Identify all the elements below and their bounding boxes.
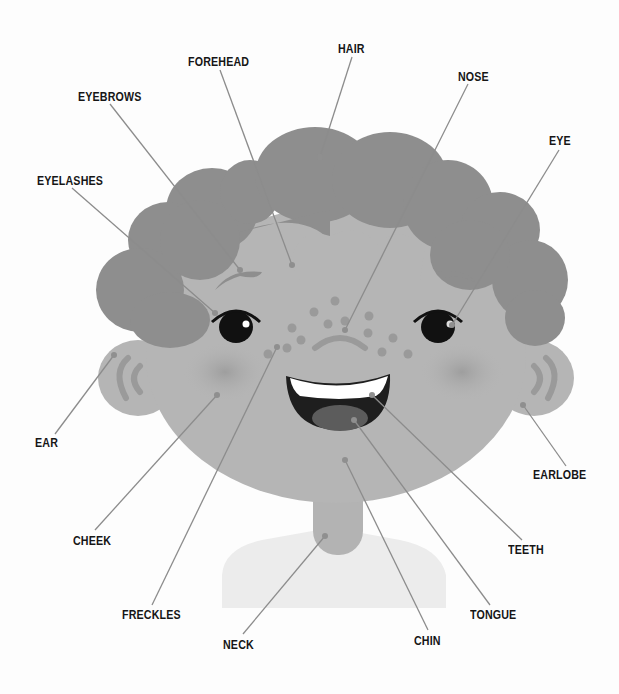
anchor-dot-teeth — [369, 392, 375, 398]
face-parts-diagram: FOREHEADHAIRNOSEEYEBROWSEYEEYELASHESEARE… — [0, 0, 619, 694]
label-eye: EYE — [549, 134, 571, 147]
anchor-dot-eyebrows — [237, 267, 243, 273]
label-eyebrows: EYEBROWS — [78, 90, 142, 103]
anchor-dot-earlobe — [520, 402, 526, 408]
label-neck: NECK — [223, 638, 254, 651]
right-cheek-blush — [420, 342, 504, 402]
label-forehead: FOREHEAD — [188, 55, 249, 68]
anchor-dot-ear — [111, 352, 117, 358]
forehead-skin — [290, 231, 425, 280]
anchor-dot-tongue — [351, 417, 357, 423]
anchor-dot-eyelashes — [212, 310, 218, 316]
anchor-dot-nose — [342, 327, 348, 333]
label-earlobe: EARLOBE — [533, 468, 586, 481]
anchor-dot-neck — [322, 533, 328, 539]
label-nose: NOSE — [458, 70, 489, 83]
anchor-dot-eye — [449, 322, 455, 328]
label-hair: HAIR — [338, 42, 365, 55]
anchor-dot-cheek — [214, 392, 220, 398]
label-cheek: CHEEK — [73, 534, 111, 547]
label-ear: EAR — [35, 436, 58, 449]
label-freckles: FRECKLES — [122, 608, 181, 621]
face-illustration — [0, 0, 619, 694]
anchor-dot-forehead — [289, 262, 295, 268]
label-chin: CHIN — [414, 634, 441, 647]
label-tongue: TONGUE — [470, 608, 516, 621]
anchor-dot-chin — [342, 457, 348, 463]
anchor-dot-freckles — [274, 344, 280, 350]
label-eyelashes: EYELASHES — [37, 174, 103, 187]
anchor-dot-hair — [317, 154, 323, 160]
label-teeth: TEETH — [508, 543, 544, 556]
